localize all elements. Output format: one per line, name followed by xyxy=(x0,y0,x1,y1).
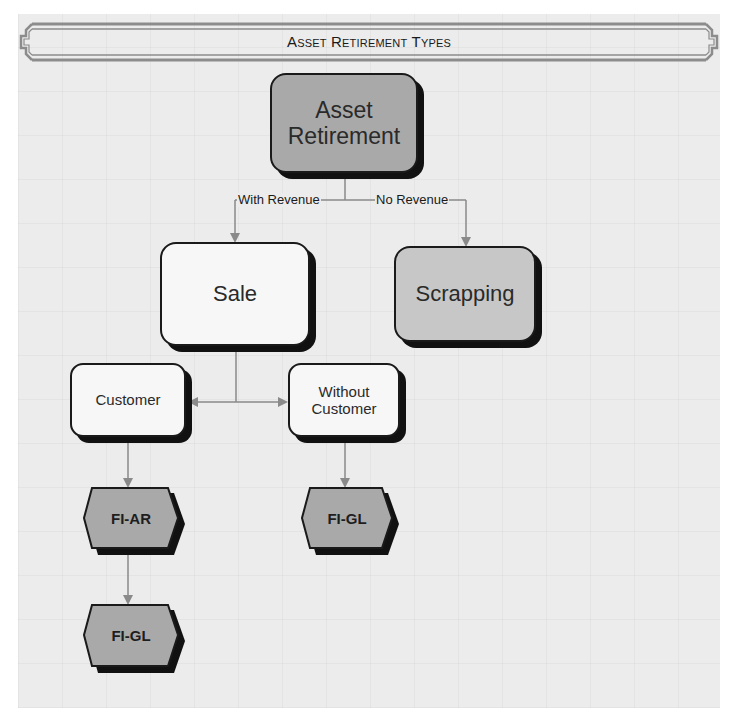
node-customer-label: Customer xyxy=(95,391,160,408)
node-sale-label: Sale xyxy=(213,281,257,306)
node-sale[interactable]: Sale xyxy=(160,242,310,346)
node-fi-gl-right[interactable]: FI-GL xyxy=(301,487,399,555)
node-asset-retirement-line1: Asset xyxy=(288,97,400,123)
node-fi-gl-bottom[interactable]: FI-GL xyxy=(83,604,185,673)
node-scrapping-label: Scrapping xyxy=(415,281,514,306)
node-fi-gl-right-label: FI-GL xyxy=(301,487,393,549)
node-customer[interactable]: Customer xyxy=(70,363,186,437)
edge-label-no-revenue: No Revenue xyxy=(375,193,449,207)
node-asset-retirement-line2: Retirement xyxy=(288,123,400,149)
node-asset-retirement[interactable]: Asset Retirement xyxy=(270,73,418,173)
edge-label-with-revenue: With Revenue xyxy=(237,193,321,207)
node-fi-ar[interactable]: FI-AR xyxy=(83,487,185,555)
node-scrapping[interactable]: Scrapping xyxy=(394,246,536,342)
node-without-customer[interactable]: Without Customer xyxy=(288,363,400,437)
node-without-customer-line1: Without xyxy=(311,383,376,400)
node-without-customer-line2: Customer xyxy=(311,400,376,417)
node-fi-ar-label: FI-AR xyxy=(83,487,179,549)
node-fi-gl-bottom-label: FI-GL xyxy=(83,604,179,667)
